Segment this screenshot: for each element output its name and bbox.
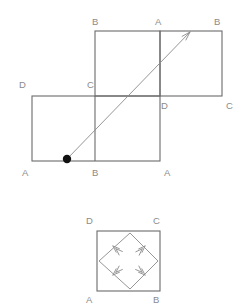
label-top-b-left: B: [92, 16, 99, 27]
label-bottom-fig-a: A: [86, 294, 93, 305]
label-bottom-a-right: A: [164, 167, 171, 178]
label-mid-d-left: D: [19, 79, 26, 90]
label-top-b-right: B: [214, 16, 221, 27]
outer-square: [97, 231, 160, 291]
label-mid-c-right: C: [226, 100, 233, 111]
label-bottom-a-left: A: [22, 167, 29, 178]
label-bottom-fig-c: C: [153, 215, 160, 226]
figure-root: BABDCDCABA DCAB: [0, 0, 248, 307]
ray-origin-dot: [63, 155, 71, 163]
geometry-figure-canvas: BABDCDCABA DCAB: [0, 0, 248, 307]
inscribed-square-group: DCAB: [86, 215, 160, 305]
label-top-a: A: [155, 16, 162, 27]
right-square: [160, 31, 222, 96]
label-bottom-fig-d: D: [86, 215, 93, 226]
label-mid-c: C: [87, 79, 94, 90]
net-with-ray-group: BABDCDCABA: [19, 16, 233, 178]
inner-diamond: [99, 233, 158, 289]
label-bottom-b: B: [92, 167, 99, 178]
top-square: [95, 31, 160, 96]
label-bottom-fig-b: B: [153, 294, 160, 305]
label-mid-d-right: D: [161, 100, 168, 111]
